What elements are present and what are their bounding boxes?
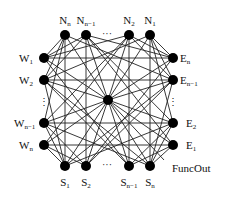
ellipsis-0: ··· xyxy=(102,28,112,39)
label-E2: E2 xyxy=(186,117,197,131)
node-En1 xyxy=(168,75,178,85)
node-Sn1 xyxy=(124,161,134,171)
label-Wn: Wn xyxy=(19,139,33,153)
edge-center-Sn1 xyxy=(108,100,129,166)
node-W1 xyxy=(39,53,49,63)
node-Wn xyxy=(39,140,49,150)
label-En: En xyxy=(180,52,191,66)
edge-Nn1-E2 xyxy=(86,35,173,123)
edge-N2-Wn1 xyxy=(44,35,129,123)
label-Sn: Sn xyxy=(145,176,155,190)
node-E1 xyxy=(168,140,178,150)
node-Nn xyxy=(60,30,70,40)
diagram-canvas: NnNn−1N2N1W1W2Wn−1WnEnEn−1E2E1S1S2Sn−1Sn… xyxy=(0,0,225,202)
label-En1: En−1 xyxy=(180,74,198,88)
node-E2 xyxy=(168,118,178,128)
node-N1 xyxy=(145,30,155,40)
ellipsis-3: ⋮ xyxy=(168,96,178,107)
network-diagram: NnNn−1N2N1W1W2Wn−1WnEnEn−1E2E1S1S2Sn−1Sn… xyxy=(0,0,225,202)
edge-center-En xyxy=(108,58,173,100)
label-W1: W1 xyxy=(19,52,33,66)
label-S1: S1 xyxy=(60,176,70,190)
label-N2: N2 xyxy=(123,14,135,28)
edge-center-Nn1 xyxy=(86,35,108,100)
node-S2 xyxy=(81,161,91,171)
label-Sn1: Sn−1 xyxy=(120,176,138,190)
edge-center-Wn xyxy=(44,100,108,145)
center-node xyxy=(103,95,113,105)
label-E1: E1 xyxy=(186,139,197,153)
node-W2 xyxy=(39,75,49,85)
label-Wn1: Wn−1 xyxy=(14,117,36,131)
edge-center-E1 xyxy=(108,100,173,145)
node-En xyxy=(168,53,178,63)
edge-center-W1 xyxy=(44,58,108,100)
label-Nn: Nn xyxy=(59,14,71,28)
node-Nn1 xyxy=(81,30,91,40)
label-S2: S2 xyxy=(81,176,91,190)
node-S1 xyxy=(60,161,70,171)
label-N1: N1 xyxy=(144,14,156,28)
label-Nn1: Nn−1 xyxy=(77,14,96,28)
edge-center-S2 xyxy=(86,100,108,166)
label-W2: W2 xyxy=(19,74,33,88)
funcout-label: FuncOut xyxy=(172,162,211,174)
node-layer xyxy=(39,30,178,171)
node-N2 xyxy=(124,30,134,40)
ellipsis-1: ··· xyxy=(102,159,112,170)
ellipsis-2: ⋮ xyxy=(39,96,49,107)
node-Wn1 xyxy=(39,118,49,128)
node-Sn xyxy=(145,161,155,171)
